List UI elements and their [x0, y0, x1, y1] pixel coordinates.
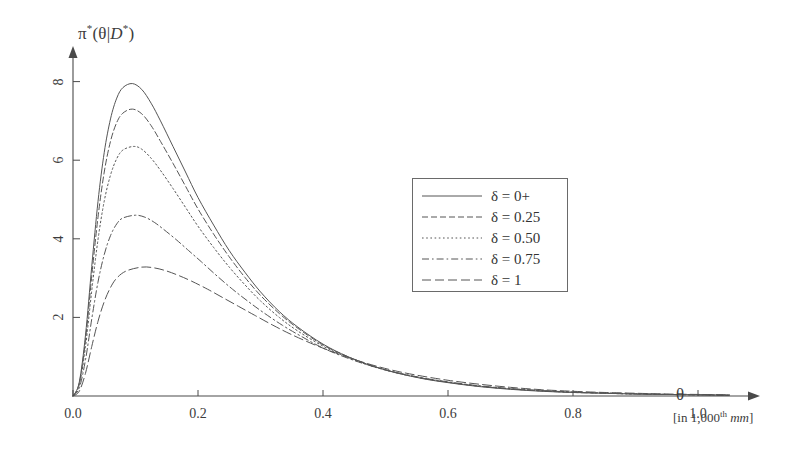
legend-line-sample-1	[421, 210, 483, 224]
series-line-2	[73, 146, 729, 396]
x-axis-label: θ	[676, 385, 684, 405]
series-line-0	[73, 84, 729, 396]
legend-label-4: δ = 1	[491, 272, 522, 289]
legend-item-2: δ = 0.50	[413, 227, 569, 249]
x-tick-label-2: 0.4	[314, 406, 332, 422]
curves-group	[73, 84, 729, 396]
y-tick-label-0: 2	[51, 314, 67, 321]
figure-container: π*(θ|D*) θ [in 1,000th mm] 0.00.20.40.60…	[0, 0, 809, 459]
legend-label-1: δ = 0.25	[491, 209, 540, 226]
legend-line-sample-0	[421, 189, 483, 203]
series-line-1	[73, 109, 729, 396]
y-tick-label-2: 6	[51, 157, 67, 164]
x-tick-label-3: 0.6	[439, 406, 457, 422]
y-axis-arrowhead	[69, 46, 78, 58]
x-tick-label-0: 0.0	[64, 406, 82, 422]
x-axis-units-label: [in 1,000th mm]	[673, 409, 753, 426]
legend-item-3: δ = 0.75	[413, 248, 569, 270]
y-tick-label-1: 4	[51, 235, 67, 242]
y-axis-label: π*(θ|D*)	[78, 22, 134, 44]
legend-line-sample-2	[421, 231, 483, 245]
legend-item-4: δ = 1	[413, 269, 569, 291]
y-tick-label-3: 8	[51, 78, 67, 85]
legend-item-1: δ = 0.25	[413, 206, 569, 228]
legend-line-sample-3	[421, 252, 483, 266]
legend-label-3: δ = 0.75	[491, 251, 540, 268]
x-tick-label-5: 1.0	[689, 406, 707, 422]
legend-line-sample-4	[421, 273, 483, 287]
x-tick-label-1: 0.2	[189, 406, 207, 422]
y-axis-label-text: π*(θ|D*)	[78, 24, 134, 43]
legend-item-0: δ = 0+	[413, 185, 569, 207]
chart-plot-area	[0, 0, 809, 459]
legend-box: δ = 0+δ = 0.25δ = 0.50δ = 0.75δ = 1	[412, 178, 568, 292]
x-axis-arrowhead	[748, 392, 760, 401]
legend-label-0: δ = 0+	[491, 188, 530, 205]
series-line-4	[73, 267, 729, 396]
series-line-3	[73, 215, 729, 396]
legend-label-2: δ = 0.50	[491, 230, 540, 247]
x-tick-label-4: 0.8	[564, 406, 582, 422]
